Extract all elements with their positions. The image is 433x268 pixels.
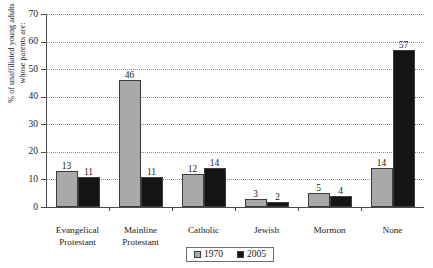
y-axis-tick: 0 xyxy=(41,207,46,208)
legend-label: 1970 xyxy=(204,249,223,259)
bar: 12 xyxy=(182,174,204,207)
category-label: None xyxy=(361,225,424,237)
category-label-line: Catholic xyxy=(172,225,235,237)
legend-swatch xyxy=(194,251,201,258)
bar-value-label: 13 xyxy=(62,161,72,171)
category-label-line: Protestant xyxy=(109,237,172,249)
bar-value-label: 11 xyxy=(147,167,156,177)
bar: 11 xyxy=(78,177,100,207)
legend-item: 2005 xyxy=(237,249,266,259)
bar-group: 32 xyxy=(235,14,298,207)
bar-group: 4611 xyxy=(109,14,172,207)
bar: 13 xyxy=(56,171,78,207)
category-label-line: Evangelical xyxy=(46,225,109,237)
y-axis-tick-label: 20 xyxy=(29,146,39,156)
category-label-line: Jewish xyxy=(235,225,298,237)
bar: 57 xyxy=(393,50,415,207)
x-axis-tick xyxy=(235,207,236,211)
x-axis-tick xyxy=(172,207,173,211)
bar-group: 1311 xyxy=(46,14,109,207)
y-axis-tick-label: 0 xyxy=(33,202,38,212)
category-label-line: Protestant xyxy=(46,237,109,249)
y-axis-tick-label: 40 xyxy=(29,91,39,101)
category-label: Mormon xyxy=(298,225,361,237)
bar: 5 xyxy=(308,193,330,207)
y-axis-tick-label: 10 xyxy=(29,174,39,184)
bar-value-label: 12 xyxy=(188,164,198,174)
category-label-line: Mormon xyxy=(298,225,361,237)
x-axis-tick xyxy=(298,207,299,211)
bar-value-label: 57 xyxy=(399,40,409,50)
y-axis-tick-label: 70 xyxy=(29,9,39,19)
bar-value-label: 2 xyxy=(275,192,280,202)
plot-area: 010203040506070 13114611121432541457 Eva… xyxy=(46,14,424,208)
legend-label: 2005 xyxy=(247,249,266,259)
bar: 46 xyxy=(119,80,141,207)
category-label: Jewish xyxy=(235,225,298,237)
bar-value-label: 5 xyxy=(316,183,321,193)
category-label: EvangelicalProtestant xyxy=(46,225,109,248)
bar: 2 xyxy=(267,202,289,208)
bar-group: 54 xyxy=(298,14,361,207)
x-axis-tick xyxy=(109,207,110,211)
y-axis-tick-label: 60 xyxy=(29,36,39,46)
category-label: MainlineProtestant xyxy=(109,225,172,248)
category-label: Catholic xyxy=(172,225,235,237)
legend-swatch xyxy=(237,251,244,258)
bar: 4 xyxy=(330,196,352,207)
y-axis-tick-label: 30 xyxy=(29,119,39,129)
legend-item: 1970 xyxy=(194,249,223,259)
bar-chart: % of unaffiliated young adults whose par… xyxy=(0,0,433,268)
category-label-line: Mainline xyxy=(109,225,172,237)
bar: 14 xyxy=(204,168,226,207)
bar-value-label: 14 xyxy=(210,158,220,168)
bar: 3 xyxy=(245,199,267,207)
bar-group: 1457 xyxy=(361,14,424,207)
bar: 14 xyxy=(371,168,393,207)
category-label-line: None xyxy=(361,225,424,237)
bar-value-label: 46 xyxy=(125,70,135,80)
y-axis-title-line-2: whose parents are: xyxy=(18,0,29,143)
bar-value-label: 4 xyxy=(338,186,343,196)
bar-value-label: 14 xyxy=(377,158,387,168)
bar-value-label: 11 xyxy=(84,167,93,177)
bar: 11 xyxy=(141,177,163,207)
legend: 19702005 xyxy=(186,247,274,262)
bar-value-label: 3 xyxy=(253,189,258,199)
y-axis-title-line-1: % of unaffiliated young adults xyxy=(7,0,18,143)
bar-group: 1214 xyxy=(172,14,235,207)
x-axis-tick xyxy=(361,207,362,211)
y-axis-tick-label: 50 xyxy=(29,64,39,74)
